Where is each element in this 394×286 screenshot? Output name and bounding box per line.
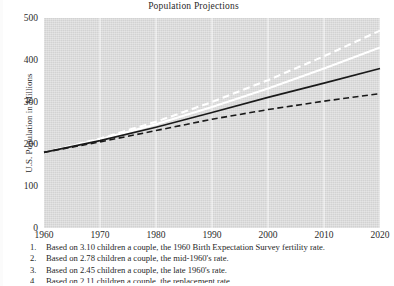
legend-item-text: Based on 3.10 children a couple, the 196… <box>46 242 387 252</box>
footnote-legend: 1.Based on 3.10 children a couple, the 1… <box>30 242 387 283</box>
plot-lines <box>44 18 380 228</box>
legend-item: 3.Based on 2.45 children a couple, the l… <box>30 265 387 276</box>
legend-item: 4.Based on 2.11 children a couple, the r… <box>30 276 387 283</box>
legend-item-text: Based on 2.45 children a couple, the lat… <box>46 265 387 275</box>
legend-item-text: Based on 2.11 children a couple, the rep… <box>46 276 387 283</box>
legend-item-number: 3. <box>30 265 46 275</box>
plot-area <box>44 18 380 228</box>
legend-item-number: 1. <box>30 242 46 252</box>
legend-item: 2.Based on 2.78 children a couple, the m… <box>30 253 387 264</box>
legend-item-number: 4. <box>30 276 46 283</box>
legend-item-text: Based on 2.78 children a couple, the mid… <box>46 253 387 263</box>
legend-item-number: 2. <box>30 253 46 263</box>
legend-item: 1.Based on 3.10 children a couple, the 1… <box>30 242 387 253</box>
